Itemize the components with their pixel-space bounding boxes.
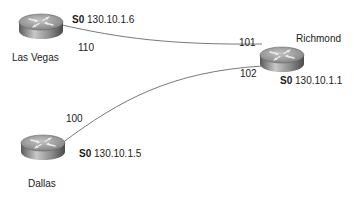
interface-name: S0: [79, 148, 91, 159]
router-dallas-icon[interactable]: [21, 135, 65, 160]
router-name-richmond: Richmond: [296, 33, 341, 44]
router-name-dallas: Dallas: [28, 178, 56, 189]
interface-ip: 130.10.1.1: [295, 75, 342, 86]
dlci-richmond-102: 102: [240, 68, 257, 79]
router-las-vegas-icon[interactable]: [19, 14, 63, 39]
dlci-las-vegas: 110: [78, 42, 94, 53]
richmond-interface-label: S0 130.10.1.1: [280, 75, 342, 86]
interface-name: S0: [280, 75, 292, 86]
dallas-interface-label: S0 130.10.1.5: [79, 148, 141, 159]
network-diagram: [0, 0, 354, 199]
dlci-richmond-101: 101: [239, 37, 256, 48]
dlci-dallas: 100: [66, 113, 83, 124]
las-vegas-interface-label: S0 130.10.1.6: [72, 14, 134, 25]
link-dallas-richmond: [62, 66, 262, 143]
interface-ip: 130.10.1.6: [87, 14, 134, 25]
router-richmond-icon[interactable]: [260, 47, 304, 72]
interface-name: S0: [72, 14, 84, 25]
interface-ip: 130.10.1.5: [94, 148, 141, 159]
router-name-las-vegas: Las Vegas: [12, 52, 59, 63]
